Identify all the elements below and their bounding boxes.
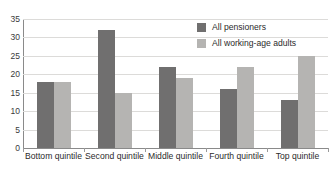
x-axis-labels: Bottom quintileSecond quintileMiddle qui… [23,151,328,161]
x-axis-label: Middle quintile [145,151,206,161]
bar [159,67,176,148]
y-tick-label-10: 10 [0,107,20,116]
x-axis-label: Fourth quintile [206,151,267,161]
chart-legend: All pensionersAll working-age adults [197,23,296,48]
y-tick-label-0: 0 [0,144,20,153]
bar [115,93,132,148]
legend-label: All working-age adults [212,39,296,48]
x-axis-label: Bottom quintile [23,151,84,161]
y-tick-label-25: 25 [0,52,20,61]
bar [298,56,315,148]
bar [237,67,254,148]
x-axis-label: Second quintile [84,151,145,161]
legend-item: All pensioners [197,23,296,32]
bar [220,89,237,148]
bar [54,82,71,148]
y-tick-label-5: 5 [0,125,20,134]
legend-swatch-icon [197,23,206,32]
y-tick-label-20: 20 [0,70,20,79]
bar [281,100,298,148]
bar-group [23,19,84,148]
y-axis-tick-labels: 05101520253035 [0,19,20,148]
bar-group [84,19,145,148]
y-tick-label-15: 15 [0,88,20,97]
x-axis-label: Top quintile [267,151,328,161]
y-tick-label-30: 30 [0,33,20,42]
bar [37,82,54,148]
gridline-0 [23,148,328,149]
legend-swatch-icon [197,39,206,48]
legend-label: All pensioners [212,23,266,32]
y-tick-label-35: 35 [0,15,20,24]
bar [176,78,193,148]
bar [98,30,115,148]
bar-chart: 05101520253035 Bottom quintileSecond qui… [0,0,333,176]
x-tick-mark [328,148,329,152]
legend-item: All working-age adults [197,39,296,48]
